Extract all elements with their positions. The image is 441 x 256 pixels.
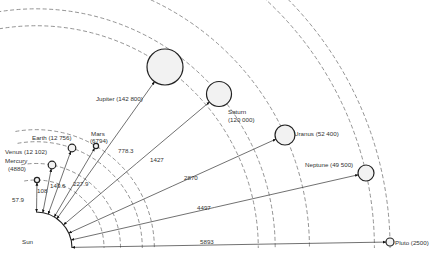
mars-label: Mars	[91, 130, 105, 137]
neptune-orbit	[141, 0, 375, 248]
saturn-ray-planet-arrow	[136, 102, 209, 163]
neptune-ray-planet-arrow	[215, 175, 359, 208]
saturn-diameter-label: (120 000)	[228, 116, 255, 123]
pluto-planet-icon	[386, 238, 394, 246]
neptune-distance-label: 4497	[197, 204, 211, 211]
sun-icon	[36, 212, 72, 248]
saturn-label: Saturn	[228, 108, 247, 115]
jupiter-label: Jupiter (142 800)	[96, 95, 143, 102]
venus-orbit	[21, 163, 120, 248]
earth-orbit	[18, 142, 143, 248]
jupiter-planet-icon	[147, 49, 183, 85]
mercury-planet-icon	[34, 177, 39, 182]
pluto-label: Pluto (2500)	[395, 239, 429, 246]
saturn-planet-icon	[207, 82, 232, 107]
planet-bodies	[34, 49, 394, 246]
jupiter-ray-planet-arrow	[106, 82, 155, 151]
earth-planet-icon	[68, 144, 76, 152]
pluto-ray-planet-arrow	[229, 242, 386, 245]
uranus-planet-icon	[275, 125, 295, 145]
sun-label: Sun	[22, 238, 34, 245]
pluto-distance-label: 5893	[200, 238, 214, 245]
mars-diameter-label: (6794)	[90, 137, 108, 144]
uranus-distance-label: 2870	[184, 174, 198, 181]
venus-planet-icon	[48, 161, 56, 169]
jupiter-distance-label: 778.3	[118, 147, 134, 154]
neptune-label: Neptune (49 500)	[305, 161, 353, 168]
mercury-distance-label: 57.9	[12, 196, 25, 203]
mercury-label: Mercury	[5, 157, 28, 164]
venus-distance-label: 108	[37, 187, 48, 194]
saturn-distance-label: 1427	[150, 156, 164, 163]
earth-distance-label: 149.6	[50, 182, 66, 189]
pluto-orbit	[145, 0, 390, 248]
solar-system-diagram: Sun Mercury (4880) Venus (12 102) Earth …	[0, 0, 441, 256]
mars-distance-label: 227.9	[73, 180, 89, 187]
mars-planet-icon	[93, 143, 98, 148]
mercury-diameter-label: (4880)	[8, 165, 26, 172]
neptune-ray-sun-arrow	[71, 207, 215, 240]
venus-label: Venus (12 102)	[5, 148, 47, 155]
uranus-label: Uranus (52 400)	[294, 130, 339, 137]
neptune-planet-icon	[358, 165, 374, 181]
uranus-ray-sun-arrow	[69, 186, 173, 233]
earth-label: Earth (12 756)	[32, 134, 72, 141]
pluto-ray-sun-arrow	[72, 245, 229, 248]
orbit-paths	[0, 0, 390, 248]
